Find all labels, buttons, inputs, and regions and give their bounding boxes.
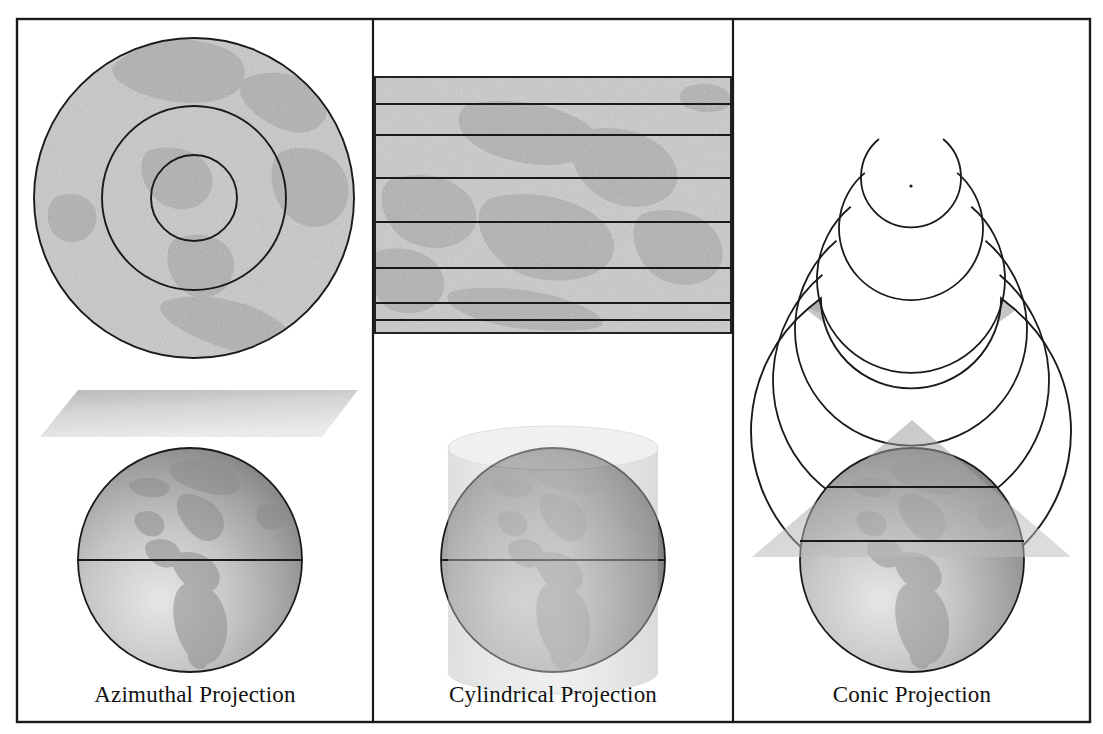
cylinder-body (448, 448, 658, 694)
cylindrical-surface (448, 426, 658, 694)
conic-apex-dot (909, 184, 912, 187)
azimuthal-projection-map (34, 38, 354, 358)
map-projections-figure: Azimuthal Projection Cylindrical Project… (0, 0, 1103, 734)
azimuthal-globe (78, 448, 302, 672)
azimuthal-tangent-plane (40, 390, 358, 437)
figure-canvas (0, 0, 1103, 734)
plane-surface (40, 390, 358, 437)
cylindrical-projection-map (369, 77, 731, 333)
